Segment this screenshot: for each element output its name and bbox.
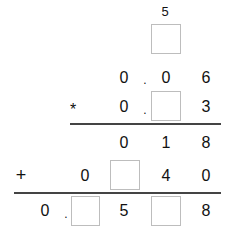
multiplier-input-box[interactable] bbox=[151, 91, 181, 121]
decimal-point: . bbox=[143, 72, 146, 88]
result-input-box[interactable] bbox=[71, 196, 100, 226]
multiplier-digit: 3 bbox=[202, 99, 211, 115]
result-digit: 0 bbox=[41, 203, 50, 219]
partial-product-digit: 1 bbox=[162, 135, 171, 151]
multiplicand-digit: 6 bbox=[202, 70, 211, 86]
result-digit: 8 bbox=[202, 203, 211, 219]
partial-product-digit: 0 bbox=[81, 168, 90, 184]
partial-product-digit: 0 bbox=[120, 135, 129, 151]
partial-product-digit: 0 bbox=[202, 168, 211, 184]
decimal-point: . bbox=[143, 102, 146, 118]
plus-operator: + bbox=[16, 167, 27, 183]
carry-digit: 5 bbox=[161, 4, 168, 20]
partial-input-box[interactable] bbox=[110, 160, 140, 190]
sum-divider-line bbox=[14, 192, 221, 194]
multiplicand-digit: 0 bbox=[120, 70, 129, 86]
decimal-point: . bbox=[64, 206, 67, 222]
result-digit: 5 bbox=[120, 203, 129, 219]
result-input-box[interactable] bbox=[151, 196, 181, 226]
partial-product-digit: 8 bbox=[202, 135, 211, 151]
multiply-operator: * bbox=[70, 102, 76, 118]
carry-input-box[interactable] bbox=[151, 24, 181, 54]
product-divider-line bbox=[70, 123, 221, 125]
partial-product-digit: 4 bbox=[162, 168, 171, 184]
multiplicand-digit: 0 bbox=[162, 70, 171, 86]
multiplier-digit: 0 bbox=[120, 99, 129, 115]
